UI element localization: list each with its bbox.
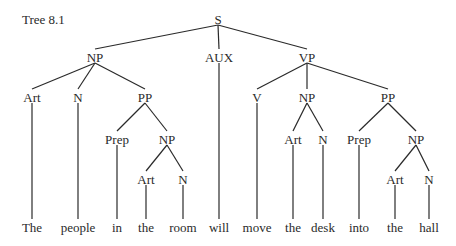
tree-edge [117, 103, 145, 131]
terminal-word: into [349, 220, 369, 235]
tree-edge [307, 103, 323, 131]
node-label: Art [284, 132, 302, 147]
node-label: S [214, 12, 221, 27]
node-label: V [252, 90, 262, 105]
node-label: Prep [105, 132, 129, 147]
syntax-tree: Tree 8.1 SNPAUXVPArtNPPVNPPPPrepNPArtNPr… [0, 0, 456, 246]
node-label: N [424, 172, 434, 187]
terminal-word: hall [419, 220, 439, 235]
tree-edge [307, 63, 388, 89]
tree-edge [95, 25, 218, 49]
terminal-word: the [285, 220, 301, 235]
tree-edge [146, 145, 167, 171]
node-label: Art [137, 172, 155, 187]
node-label: Art [23, 90, 41, 105]
tree-edge [145, 103, 167, 131]
node-label: NP [159, 132, 176, 147]
tree-edge [95, 63, 145, 89]
terminal-word: the [138, 220, 154, 235]
tree-edge [395, 145, 416, 171]
terminal-word: in [112, 220, 123, 235]
terminal-word: the [387, 220, 403, 235]
node-label: VP [299, 50, 316, 65]
tree-edge [218, 25, 307, 49]
node-label: NP [87, 50, 104, 65]
node-label: NP [408, 132, 425, 147]
tree-edge [32, 63, 95, 89]
tree-edge [218, 25, 219, 49]
node-label: PP [138, 90, 152, 105]
node-label: NP [299, 90, 316, 105]
node-label: N [73, 90, 83, 105]
figure-title: Tree 8.1 [22, 12, 65, 27]
tree-edge [359, 103, 388, 131]
tree-nodes: SNPAUXVPArtNPPVNPPPPrepNPArtNPrepNPArtNA… [22, 12, 439, 235]
tree-edge [257, 63, 307, 89]
node-label: AUX [205, 50, 234, 65]
node-label: Prep [347, 132, 371, 147]
tree-edge [416, 145, 429, 171]
terminal-word: room [169, 220, 196, 235]
node-label: Art [386, 172, 404, 187]
tree-edge [293, 103, 307, 131]
tree-edge [388, 103, 416, 131]
node-label: N [318, 132, 328, 147]
terminal-word: desk [311, 220, 335, 235]
node-label: PP [381, 90, 395, 105]
terminal-word: The [22, 220, 42, 235]
node-label: N [178, 172, 188, 187]
terminal-word: move [243, 220, 272, 235]
terminal-word: will [209, 220, 230, 235]
tree-edge [167, 145, 183, 171]
terminal-word: people [61, 220, 96, 235]
